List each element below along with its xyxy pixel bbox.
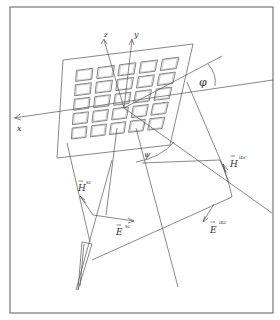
h-inc-superscript: inc xyxy=(239,154,247,160)
e-sc-superscript: sc xyxy=(125,223,131,229)
e-inc-label: E xyxy=(209,225,217,235)
aperture-cell-inner xyxy=(111,123,125,134)
incident-ray-center xyxy=(136,128,178,287)
scattering-diagram: x z y φ ψ H → sc xyxy=(0,0,280,320)
aperture-cell-inner xyxy=(117,78,132,89)
aperture-cell-inner xyxy=(119,64,134,75)
aperture-cell-inner xyxy=(141,61,156,72)
aperture-cell-inner xyxy=(73,127,86,138)
y-axis-label: y xyxy=(133,30,139,39)
h-inc-arrow: → xyxy=(230,152,235,159)
aperture-cell-inner xyxy=(97,81,111,92)
phi-arc xyxy=(208,64,215,86)
e-inc-arrow: → xyxy=(210,218,215,225)
aperture-cell-inner xyxy=(130,120,144,131)
e-sc-vector xyxy=(93,215,134,223)
scattered-wedge-inner xyxy=(80,244,84,286)
h-sc-vector xyxy=(80,196,93,215)
incident-ray-right xyxy=(187,82,226,173)
aperture-cell-inner xyxy=(98,67,113,78)
h-sc-label: H xyxy=(77,183,86,193)
z-axis-label: z xyxy=(103,31,108,39)
e-inc-superscript: inc xyxy=(219,219,227,225)
z-axis-line xyxy=(104,40,124,108)
phi-label: φ xyxy=(199,76,207,89)
aperture-cell-inner xyxy=(113,108,127,119)
aperture-cell-inner xyxy=(93,110,107,121)
x-axis-line xyxy=(14,80,273,118)
aperture-cell-inner xyxy=(76,84,90,95)
scattered-ray-2 xyxy=(106,128,117,215)
aperture-cell-inner xyxy=(152,103,167,114)
e-sc-label: E xyxy=(115,227,123,237)
wavefront-top-edge xyxy=(142,160,220,163)
psi-label: ψ xyxy=(144,150,151,159)
x-axis-label: x xyxy=(17,124,22,133)
h-inc-vector xyxy=(223,164,228,182)
h-sc-arrow: → xyxy=(78,177,83,184)
aperture-cell-inner xyxy=(74,113,87,124)
aperture-cell-inner xyxy=(92,125,105,136)
h-sc-superscript: sc xyxy=(86,179,92,185)
e-sc-arrow: → xyxy=(116,221,121,228)
aperture-cell-inner xyxy=(138,76,153,87)
aperture-cell-inner xyxy=(133,106,147,117)
h-inc-label: H xyxy=(229,159,238,169)
z-axis-arrowhead xyxy=(101,39,107,44)
aperture-cell-inner xyxy=(77,69,91,80)
aperture-cell-inner xyxy=(162,58,178,69)
incident-wavefront xyxy=(92,160,232,260)
